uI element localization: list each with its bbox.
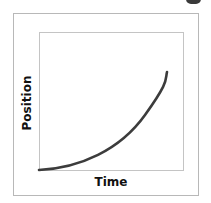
y-axis-label: Position [20, 76, 34, 131]
x-axis-label: Time [95, 175, 128, 189]
